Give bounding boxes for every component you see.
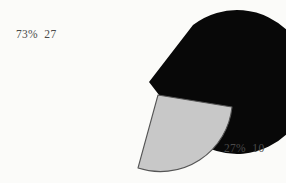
pie-slice-gray-exploded[interactable] [138, 95, 232, 172]
pie-label-black-slice: 73% 27 [16, 28, 56, 40]
pie-label-gray-slice: 27% 10 [224, 142, 264, 154]
pie-chart: 73% 27 27% 10 [0, 0, 286, 183]
